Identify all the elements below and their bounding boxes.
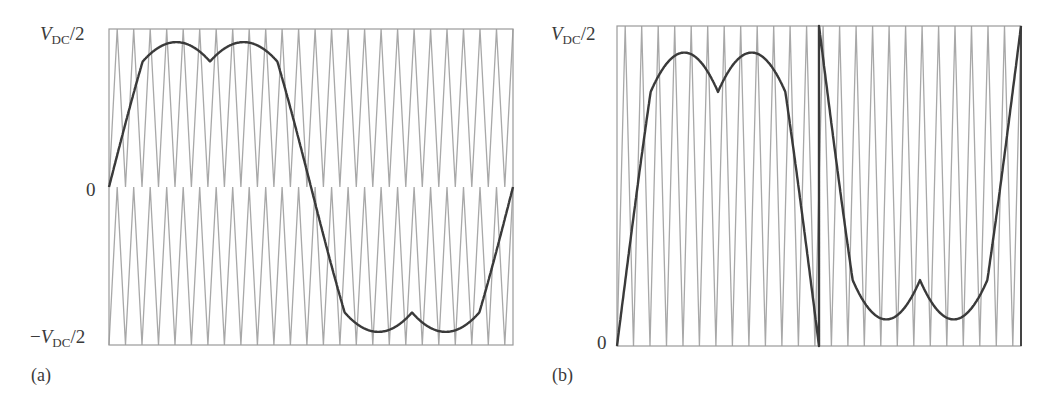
- carrier-wave-1: [109, 29, 513, 187]
- panel-b-plot: [617, 26, 1021, 346]
- pwm-figure: [0, 0, 1048, 406]
- reference-signal: [617, 26, 1021, 346]
- ytick-a-top-rest: /2: [70, 23, 85, 44]
- ytick-a-top: VDC/2: [40, 24, 84, 46]
- panel-tag-a: (a): [31, 365, 51, 386]
- ytick-a-bottom: −VDC/2: [30, 327, 85, 349]
- ytick-a-zero-text: 0: [86, 179, 96, 200]
- ytick-b-top-var: V: [551, 23, 563, 44]
- ytick-a-bottom-sub: DC: [52, 335, 70, 350]
- ytick-b-top: VDC/2: [551, 24, 595, 46]
- ytick-b-top-sub: DC: [563, 32, 581, 47]
- ytick-a-bottom-sign: −: [30, 326, 41, 347]
- carrier-wave-2: [109, 187, 513, 345]
- ytick-a-top-var: V: [40, 23, 52, 44]
- panel-tag-b: (b): [552, 365, 573, 386]
- ytick-b-zero: 0: [597, 333, 607, 352]
- ytick-a-zero: 0: [86, 180, 96, 199]
- ytick-b-top-rest: /2: [581, 23, 596, 44]
- ytick-a-top-sub: DC: [52, 32, 70, 47]
- ytick-b-zero-text: 0: [597, 332, 607, 353]
- ytick-a-bottom-rest: /2: [70, 326, 85, 347]
- panel-a-plot: [109, 29, 513, 345]
- ytick-a-bottom-var: V: [41, 326, 53, 347]
